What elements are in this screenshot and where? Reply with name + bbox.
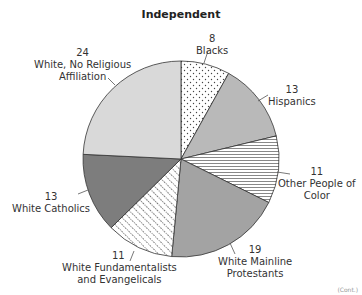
continued-note: (Cont.)	[337, 286, 358, 293]
label-white-fundamentalists: 11White Fundamentalistsand Evangelicals	[62, 250, 177, 286]
label-blacks: 8Blacks	[196, 33, 228, 57]
label-white-mainline-protestants: 19White MainlineProtestants	[218, 244, 292, 280]
label-hispanics: 13Hispanics	[268, 84, 316, 108]
label-other-people-of-color: 11Other People ofColor	[278, 166, 356, 202]
pie-chart	[0, 0, 362, 295]
label-white-catholics: 13White Catholics	[12, 191, 90, 215]
pie-slices	[83, 61, 279, 257]
label-white-no-religious-affiliation: 24White, No ReligiousAffiliation	[34, 47, 131, 83]
